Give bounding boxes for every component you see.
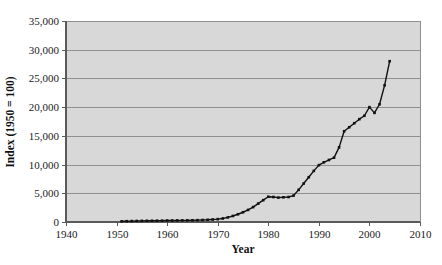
y-tick-label: 0 — [54, 216, 60, 228]
data-point-marker — [206, 219, 209, 222]
data-point-marker — [191, 219, 194, 222]
data-point-marker — [186, 219, 189, 222]
x-tick-label: 1960 — [157, 228, 180, 240]
data-point-marker — [292, 194, 295, 197]
x-tick-label: 1950 — [107, 228, 130, 240]
data-point-marker — [328, 159, 331, 162]
data-point-marker — [171, 219, 174, 222]
x-tick-label: 1940 — [56, 228, 79, 240]
data-point-marker — [287, 196, 290, 199]
data-point-marker — [297, 189, 300, 192]
data-point-marker — [216, 218, 219, 221]
data-point-marker — [313, 170, 316, 173]
data-point-marker — [318, 164, 321, 167]
y-tick-label: 15,000 — [29, 130, 60, 142]
data-point-marker — [146, 219, 149, 222]
data-point-marker — [252, 206, 255, 209]
y-tick-label: 10,000 — [29, 159, 60, 171]
data-point-marker — [323, 161, 326, 164]
x-tick-label: 2010 — [410, 228, 433, 240]
data-point-marker — [161, 219, 164, 222]
data-point-marker — [267, 195, 270, 198]
data-point-marker — [272, 196, 275, 199]
x-axis-tick-labels: 19401950196019701980199020002010 — [56, 228, 433, 240]
data-point-marker — [383, 84, 386, 87]
x-tick-label: 1980 — [258, 228, 281, 240]
data-point-marker — [221, 217, 224, 220]
data-point-marker — [181, 219, 184, 222]
y-axis-title: Index (1950 = 100) — [4, 76, 17, 167]
plot-background — [66, 21, 420, 222]
data-point-marker — [343, 130, 346, 133]
data-point-marker — [363, 114, 366, 117]
data-point-marker — [151, 219, 154, 222]
chart-figure: 05,00010,00015,00020,00025,00030,00035,0… — [0, 0, 442, 265]
data-point-marker — [120, 220, 123, 223]
data-point-marker — [156, 219, 159, 222]
data-point-marker — [348, 126, 351, 129]
y-tick-label: 35,000 — [29, 15, 60, 27]
data-point-marker — [130, 220, 133, 223]
data-point-marker — [282, 196, 285, 199]
data-point-marker — [378, 103, 381, 106]
data-point-marker — [136, 220, 139, 223]
data-point-marker — [277, 196, 280, 199]
data-point-marker — [353, 122, 356, 125]
chart-canvas: 05,00010,00015,00020,00025,00030,00035,0… — [0, 0, 442, 265]
data-point-marker — [358, 118, 361, 121]
data-point-marker — [388, 60, 391, 63]
data-point-marker — [125, 220, 128, 223]
data-point-marker — [141, 220, 144, 223]
data-point-marker — [333, 156, 336, 159]
data-point-marker — [368, 106, 371, 109]
y-tick-label: 25,000 — [29, 72, 60, 84]
data-point-marker — [166, 219, 169, 222]
data-point-marker — [237, 213, 240, 216]
data-point-marker — [373, 112, 376, 115]
x-tick-label: 2000 — [359, 228, 382, 240]
x-axis-ticks — [67, 222, 421, 226]
data-point-marker — [196, 219, 199, 222]
data-point-marker — [232, 215, 235, 218]
data-point-marker — [338, 146, 341, 149]
x-axis-title: Year — [232, 243, 255, 255]
data-point-marker — [176, 219, 179, 222]
data-point-marker — [211, 218, 214, 221]
y-axis-tick-labels: 05,00010,00015,00020,00025,00030,00035,0… — [29, 15, 60, 228]
data-point-marker — [247, 209, 250, 212]
y-tick-label: 5,000 — [34, 187, 59, 199]
y-tick-label: 20,000 — [29, 101, 60, 113]
x-tick-label: 1970 — [208, 228, 231, 240]
data-point-marker — [257, 202, 260, 205]
data-point-marker — [242, 211, 245, 214]
data-point-marker — [227, 216, 230, 219]
x-tick-label: 1990 — [309, 228, 332, 240]
y-tick-label: 30,000 — [29, 44, 60, 56]
data-point-marker — [307, 176, 310, 179]
data-point-marker — [201, 219, 204, 222]
data-point-marker — [302, 182, 305, 185]
data-point-marker — [262, 199, 265, 202]
